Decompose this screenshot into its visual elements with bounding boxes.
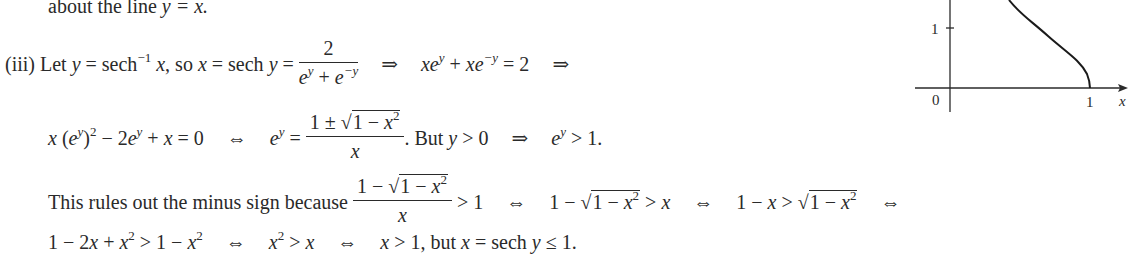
sech-inverse-curve xyxy=(1009,0,1090,88)
x-axis-label: x xyxy=(1118,93,1126,109)
text-line-2: (iii) Let y = sech−1 x, so x = sech y = … xyxy=(5,40,569,92)
inverse-sech-graph: 1 0 1 x xyxy=(900,0,1134,120)
var-y: y xyxy=(72,53,81,75)
line1-math: y = x. xyxy=(162,0,208,17)
text-line-1: about the line y = x. xyxy=(48,0,208,16)
y-tick-label-1: 1 xyxy=(931,21,939,37)
fraction-denominator-x: x xyxy=(306,137,405,163)
text-line-4: This rules out the minus sign because 1 … xyxy=(48,178,900,230)
fraction-denominator-x: x xyxy=(353,201,452,227)
sech-fn: sech xyxy=(102,53,138,75)
so-word: , so xyxy=(165,53,193,75)
inverse-superscript: −1 xyxy=(137,50,151,65)
text-line-3: x (ey)2 − 2ey + x = 0 ⇔ ey = 1 ± √1 − x2… xyxy=(48,114,602,166)
but-word: . But xyxy=(404,127,443,149)
sqrt-symbol: √1 − x2 xyxy=(341,111,401,134)
one-plus-minus: 1 ± xyxy=(310,111,336,133)
implies-arrow: ⇒ xyxy=(381,53,398,75)
one-minus: 1 − xyxy=(357,175,383,197)
gt-one: > 1. xyxy=(571,127,602,149)
but-word-2: , but xyxy=(421,231,457,253)
var-x: x xyxy=(156,53,165,75)
iff-arrow: ⇔ xyxy=(227,127,247,149)
fraction-2-over-cosh: 2 ey + e−y xyxy=(299,37,358,89)
line1-text: about the line xyxy=(48,0,157,17)
gt-one-2: > 1 xyxy=(457,191,483,213)
rules-out-text: This rules out the minus sign because xyxy=(48,191,348,213)
let-word: Let xyxy=(40,53,67,75)
text-line-5: 1 − 2x + x2 > 1 − x2 ⇔ x2 > x ⇔ x > 1, b… xyxy=(48,232,577,252)
fraction-denominator: ey + e−y xyxy=(299,63,358,89)
equals-2: = 2 xyxy=(503,53,529,75)
part-label: (iii) xyxy=(5,53,35,75)
implies-arrow-2: ⇒ xyxy=(552,53,569,75)
origin-label: 0 xyxy=(932,92,940,108)
fraction-minus-root: 1 − √1 − x2 x xyxy=(353,175,452,227)
fraction-numerator: 2 xyxy=(299,37,358,63)
equals: = xyxy=(86,53,97,75)
x-tick-label-1: 1 xyxy=(1086,94,1094,110)
fraction-quadratic-solution: 1 ± √1 − x2 x xyxy=(306,111,405,163)
sqrt-symbol: √1 − x2 xyxy=(388,175,448,198)
